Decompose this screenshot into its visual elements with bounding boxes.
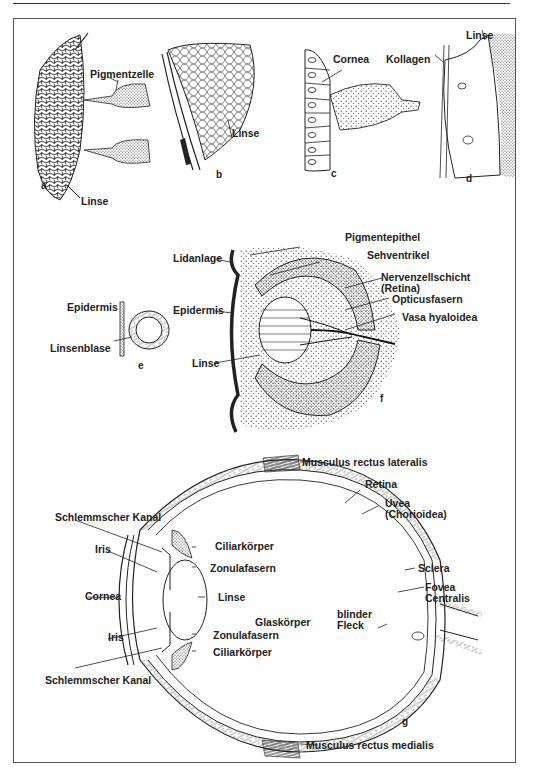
label-zonulafasern-top: Zonulafasern <box>210 563 276 574</box>
label-musculus-rectus-lateralis: Musculus rectus lateralis <box>302 457 427 468</box>
label-pigmentzelle: Pigmentzelle <box>90 69 154 80</box>
label-musculus-rectus-medialis: Musculus rectus medialis <box>306 740 434 751</box>
label-e-epidermis: Epidermis <box>67 302 118 313</box>
label-g-linse: Linse <box>218 592 245 603</box>
panel-letter-d: d <box>466 173 472 184</box>
label-nervenzellschicht: Nervenzellschicht (Retina) <box>381 272 470 294</box>
label-ciliarkoerper-bottom: Ciliarkörper <box>213 647 272 658</box>
panel-b-drawing <box>162 43 254 170</box>
panel-letter-b: b <box>216 169 222 180</box>
label-glaskoerper: Glaskörper <box>255 617 310 628</box>
panel-f-drawing <box>231 247 400 432</box>
label-f-linse: Linse <box>192 358 219 369</box>
label-zonulafasern-bottom: Zonulafasern <box>213 630 279 641</box>
label-vasa-hyaloidea: Vasa hyaloidea <box>402 312 477 323</box>
label-schlemmscher-kanal-top: Schlemmscher Kanal <box>55 512 161 523</box>
label-pigmentepithel: Pigmentepithel <box>345 232 420 243</box>
label-b-linse: Linse <box>232 128 259 139</box>
panel-letter-f: f <box>380 393 383 404</box>
label-cornea-c: Cornea <box>333 54 369 65</box>
label-retina: Retina <box>365 479 397 490</box>
panel-letter-e: e <box>138 360 144 371</box>
panel-d-drawing <box>435 30 515 178</box>
label-iris-top: Iris <box>95 544 111 555</box>
label-uvea: Uvea (Chorioidea) <box>385 498 447 520</box>
label-a-linse: Linse <box>81 196 108 207</box>
label-sehventrikel: Sehventrikel <box>367 250 429 261</box>
label-opticusfasern: Opticusfasern <box>392 294 463 305</box>
panel-e-drawing <box>114 302 169 356</box>
label-kollagen: Kollagen <box>386 54 430 65</box>
panel-c-drawing <box>305 50 420 171</box>
panel-letter-a: a <box>41 180 47 191</box>
panel-letter-c: c <box>331 168 337 179</box>
panel-a-drawing <box>34 33 150 200</box>
label-schlemmscher-kanal-bottom: Schlemmscher Kanal <box>45 675 151 686</box>
label-iris-bottom: Iris <box>108 632 124 643</box>
label-linsenblase: Linsenblase <box>50 343 111 354</box>
label-ciliarkoerper-top: Ciliarkörper <box>215 541 274 552</box>
label-blinder-fleck: blinder Fleck <box>337 609 372 631</box>
label-sclera: Sclera <box>418 563 450 574</box>
label-f-epidermis: Epidermis <box>173 305 224 316</box>
label-fovea-centralis: Fovea Centralis <box>425 582 470 604</box>
panel-letter-g: g <box>402 716 408 727</box>
label-d-linse: Linse <box>466 30 493 41</box>
label-lidanlage: Lidanlage <box>173 253 222 264</box>
label-cornea-g: Cornea <box>85 591 121 602</box>
